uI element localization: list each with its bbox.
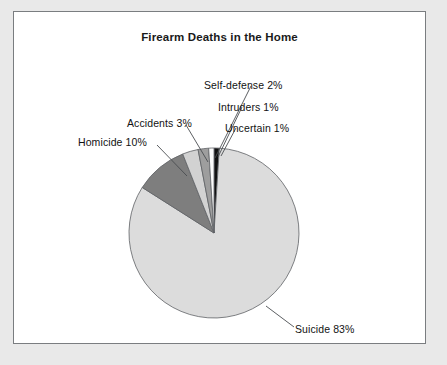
- figure-frame: Firearm Deaths in the Home Self-defense …: [13, 11, 426, 344]
- leader-line-suicide: [266, 306, 294, 327]
- slice-label-intruders: Intruders 1%: [218, 101, 279, 113]
- figure-canvas: Firearm Deaths in the Home Self-defense …: [14, 12, 425, 343]
- pie-chart: [14, 12, 425, 343]
- slice-label-suicide: Suicide 83%: [295, 323, 354, 335]
- slice-label-self-defense: Self-defense 2%: [204, 79, 283, 91]
- slice-label-homicide: Homicide 10%: [78, 136, 147, 148]
- slice-label-uncertain: Uncertain 1%: [225, 122, 289, 134]
- pie-slices: [129, 148, 299, 318]
- screenshot-root: Firearm Deaths in the Home Self-defense …: [0, 0, 447, 365]
- slice-label-accidents: Accidents 3%: [127, 117, 192, 129]
